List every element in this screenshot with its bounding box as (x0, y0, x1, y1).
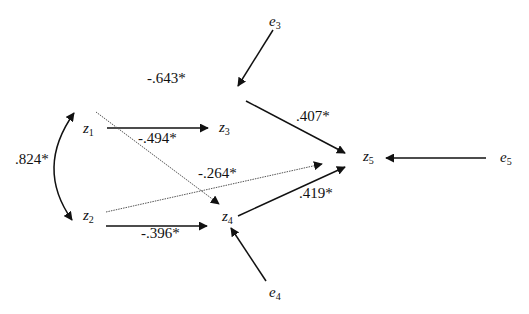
coef-z3-z5: .407* (296, 108, 330, 124)
coef-z1-z4: -.494* (138, 130, 177, 146)
path-z1-z4 (96, 112, 219, 204)
path-e4-z4 (231, 228, 266, 281)
path-z1-z2-covariance (54, 113, 74, 220)
coef-z4-z5: .419* (299, 185, 333, 201)
coef-z1-z3: -.643* (147, 70, 186, 86)
path-e3-z3 (238, 30, 273, 86)
node-z4: z4 (221, 208, 233, 226)
node-z2: z2 (82, 207, 94, 225)
node-e3: e3 (269, 13, 281, 31)
coef-z2-z5: -.264* (198, 165, 237, 181)
node-z1: z1 (82, 120, 94, 138)
node-z5: z5 (362, 148, 374, 166)
node-e5: e5 (500, 149, 512, 167)
coef-z2-z4: -.396* (141, 225, 180, 241)
path-diagram: z1 z2 z3 z4 z5 e3 e4 e5 .824* -.643* -.4… (0, 0, 529, 314)
coef-z1-z2: .824* (15, 151, 49, 167)
node-e4: e4 (269, 284, 281, 302)
node-z3: z3 (218, 119, 230, 137)
